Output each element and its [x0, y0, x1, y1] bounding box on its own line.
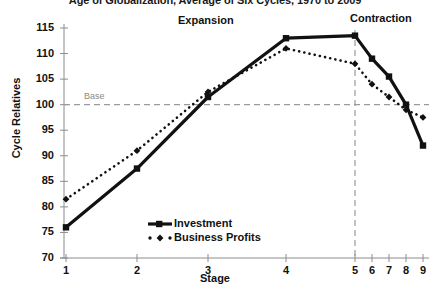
- legend-item-investment: Investment: [174, 217, 232, 229]
- marker-investment-stage-7: [386, 73, 392, 79]
- legend-item-business-profits: Business Profits: [174, 231, 261, 243]
- marker-investment-stage-6: [369, 55, 375, 61]
- series-line-investment: [66, 36, 423, 228]
- expansion-label: Expansion: [178, 14, 234, 26]
- marker-investment-stage-8: [403, 101, 409, 107]
- legend-marker-investment: [156, 221, 162, 227]
- marker-investment-stage-5: [352, 32, 358, 38]
- marker-investment-stage-4: [283, 35, 289, 41]
- legend-dot-2-business-profits: [168, 236, 171, 239]
- chart-container: Age of Globalization, Average of Six Cyc…: [0, 0, 430, 289]
- legend-dot-1-business-profits: [148, 236, 151, 239]
- marker-investment-stage-1: [63, 224, 69, 230]
- marker-business-profits-stage-9: [420, 114, 427, 121]
- marker-investment-stage-2: [134, 165, 140, 171]
- marker-business-profits-stage-5: [352, 60, 359, 67]
- plot-area: [0, 0, 430, 289]
- contraction-label: Contraction: [350, 12, 412, 24]
- legend-marker-business-profits: [157, 235, 164, 242]
- base-label: Base: [84, 91, 105, 101]
- marker-investment-stage-3: [205, 94, 211, 100]
- marker-investment-stage-9: [420, 142, 426, 148]
